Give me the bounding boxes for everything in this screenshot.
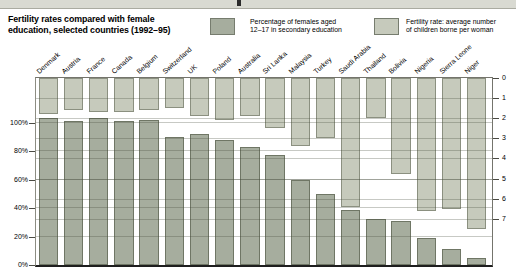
bar-group-turkey: Turkey bbox=[316, 78, 336, 265]
left-axis-label: 20% bbox=[0, 233, 28, 241]
right-axis-tick bbox=[493, 138, 499, 139]
left-axis-tick bbox=[29, 265, 35, 266]
left-axis-label: 0% bbox=[0, 261, 28, 269]
bar-group-canada: Canada bbox=[114, 78, 134, 265]
gridline-fert-3 bbox=[36, 138, 492, 139]
bar-fertility bbox=[291, 78, 311, 146]
legend-label-fertility: Fertility rate: average number of childr… bbox=[406, 18, 496, 34]
category-label: Turkey bbox=[312, 56, 332, 75]
bar-group-niger: Niger bbox=[467, 78, 487, 265]
legend-fertility-line2: of children borne per woman bbox=[406, 26, 496, 34]
bar-education bbox=[64, 121, 84, 265]
legend-education-line1: Percentage of females aged bbox=[250, 18, 342, 26]
bar-fertility bbox=[39, 78, 59, 114]
left-axis-tick bbox=[29, 237, 35, 238]
bar-group-sierra-leone: Sierra Leone bbox=[442, 78, 462, 265]
right-axis-tick bbox=[493, 98, 499, 99]
category-label: Denmark bbox=[35, 51, 61, 75]
bar-group-bolivia: Bolivia bbox=[391, 78, 411, 265]
category-label: Sri Lanka bbox=[262, 50, 289, 75]
bar-group-australia: Australia bbox=[240, 78, 260, 265]
right-axis-tick bbox=[493, 118, 499, 119]
left-axis-label: 40% bbox=[0, 204, 28, 212]
category-label: Bolivia bbox=[388, 56, 408, 75]
bar-education bbox=[265, 155, 285, 265]
category-label: UK bbox=[186, 63, 198, 75]
gridline-pct-100 bbox=[36, 122, 492, 123]
left-axis-label: 80% bbox=[0, 147, 28, 155]
bar-group-saudi-arabia: Saudi Arabia bbox=[341, 78, 361, 265]
right-axis-label: 0 bbox=[502, 74, 506, 82]
gridline-fert-1 bbox=[36, 98, 492, 99]
right-axis-tick bbox=[493, 219, 499, 220]
bar-group-sri-lanka: Sri Lanka bbox=[265, 78, 285, 265]
bar-fertility bbox=[240, 78, 260, 116]
legend-fertility-line1: Fertility rate: average number bbox=[406, 18, 496, 26]
category-label: Poland bbox=[211, 55, 232, 75]
gridline-fert-6 bbox=[36, 199, 492, 200]
bar-fertility bbox=[139, 78, 159, 110]
gridline-pct-80 bbox=[36, 150, 492, 151]
legend-swatch-fertility bbox=[374, 18, 399, 35]
bar-group-belgium: Belgium bbox=[139, 78, 159, 265]
gridline-pct-20 bbox=[36, 236, 492, 237]
bar-education bbox=[139, 120, 159, 265]
bar-fertility bbox=[215, 78, 235, 120]
right-axis-label: 3 bbox=[502, 134, 506, 142]
bar-fertility bbox=[391, 78, 411, 174]
category-label: Niger bbox=[463, 59, 480, 75]
category-label: Belgium bbox=[136, 53, 159, 75]
left-axis-tick bbox=[29, 208, 35, 209]
gridline-pct-40 bbox=[36, 207, 492, 208]
bar-education bbox=[114, 121, 134, 265]
bar-fertility bbox=[190, 78, 210, 116]
bar-education bbox=[316, 194, 336, 265]
bar-education bbox=[39, 118, 59, 265]
bar-education bbox=[366, 219, 386, 265]
page-top-strip bbox=[0, 0, 516, 9]
bar-education bbox=[240, 147, 260, 265]
right-axis-tick bbox=[493, 199, 499, 200]
gridline-fert-5 bbox=[36, 179, 492, 180]
category-label: Thailand bbox=[362, 52, 387, 75]
left-axis-label: 100% bbox=[0, 119, 28, 127]
bar-group-france: France bbox=[89, 78, 109, 265]
bar-fertility bbox=[165, 78, 185, 108]
category-label: Malaysia bbox=[287, 51, 312, 75]
category-label: Australia bbox=[236, 52, 261, 75]
gridline-fert-2 bbox=[36, 118, 492, 119]
gridline-fert-4 bbox=[36, 158, 492, 159]
category-label: Nigeria bbox=[413, 55, 434, 75]
bar-education bbox=[442, 249, 462, 265]
bar-education bbox=[467, 258, 487, 265]
category-label: Canada bbox=[110, 53, 133, 75]
right-axis-label: 6 bbox=[502, 195, 506, 203]
category-label: France bbox=[85, 55, 106, 75]
right-axis-label: 2 bbox=[502, 114, 506, 122]
bar-group-thailand: Thailand bbox=[366, 78, 386, 265]
page-top-mark bbox=[237, 0, 241, 6]
bar-group-austria: Austria bbox=[64, 78, 84, 265]
right-axis-tick bbox=[493, 158, 499, 159]
category-label: Austria bbox=[60, 55, 81, 75]
bar-group-poland: Poland bbox=[215, 78, 235, 265]
chart-title-line2: education, selected countries (1992–95) bbox=[8, 25, 218, 36]
gridline-fert-7 bbox=[36, 219, 492, 220]
bar-education bbox=[417, 238, 437, 265]
right-axis-tick bbox=[493, 78, 499, 79]
legend-education-line2: 12–17 in secondary education bbox=[250, 26, 342, 34]
bar-group-switzerland: Switzerland bbox=[165, 78, 185, 265]
bar-education bbox=[291, 180, 311, 265]
plot-area: DenmarkAustriaFranceCanadaBelgiumSwitzer… bbox=[35, 77, 493, 267]
bar-fertility bbox=[89, 78, 109, 112]
bar-group-nigeria: Nigeria bbox=[417, 78, 437, 265]
bar-group-malaysia: Malaysia bbox=[291, 78, 311, 265]
bar-education bbox=[391, 221, 411, 265]
bar-education bbox=[165, 137, 185, 265]
right-axis-tick bbox=[493, 179, 499, 180]
right-axis-label: 1 bbox=[502, 94, 506, 102]
legend-swatch-education bbox=[210, 18, 235, 35]
bar-fertility bbox=[265, 78, 285, 128]
legend-label-education: Percentage of females aged 12–17 in seco… bbox=[250, 18, 342, 34]
magazine-chart-page: { "header": { "title_line1": "Fertility … bbox=[0, 0, 516, 276]
